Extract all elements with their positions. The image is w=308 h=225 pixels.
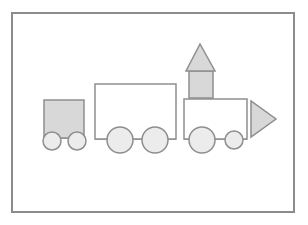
engine-chimney-roof-triangle [186, 44, 215, 71]
boxcar-wheel-1 [107, 127, 133, 153]
caboose-wheel-1 [43, 132, 61, 150]
engine-front-triangle [251, 101, 276, 137]
caboose-wheel-2 [68, 132, 86, 150]
engine-wheel-1 [189, 127, 215, 153]
train-drawing [0, 0, 308, 225]
train-diagram [0, 0, 308, 225]
engine-wheel-2 [225, 131, 243, 149]
boxcar-wheel-2 [142, 127, 168, 153]
engine-chimney [189, 71, 213, 98]
